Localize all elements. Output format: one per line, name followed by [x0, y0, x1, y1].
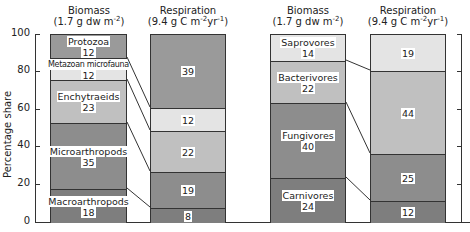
- y-tick-label-100: 100: [6, 27, 30, 38]
- segment-value: 12: [81, 70, 95, 81]
- segment-value: 23: [81, 102, 95, 113]
- segment-enchytraeids: Enchytraeids 23: [51, 80, 126, 123]
- y-axis-left: [35, 34, 36, 223]
- right-respiration-bar: 19 44 25 12: [370, 34, 446, 223]
- biomass-unit: (1.7 g dw m-2): [40, 16, 138, 27]
- segment-value: 24: [301, 201, 315, 212]
- biomass-title: Biomass: [260, 5, 356, 16]
- segment-value: 19: [181, 185, 195, 196]
- segment-protozoa: 39: [151, 35, 225, 108]
- segment-label: Saprovores: [280, 37, 335, 48]
- segment-value: 19: [401, 48, 415, 59]
- segment-value: 40: [301, 141, 315, 152]
- y-tick-label-0: 0: [6, 215, 30, 226]
- segment-value: 12: [181, 115, 195, 126]
- segment-value: 12: [401, 207, 415, 218]
- segment-value: 22: [181, 147, 195, 158]
- segment-value: 22: [301, 83, 315, 94]
- segment-microarthropods: 19: [151, 172, 225, 208]
- segment-label: Metazoan microfauna: [47, 59, 130, 70]
- segment-label: Fungivores: [281, 130, 335, 141]
- segment-enchytraeids: 22: [151, 131, 225, 172]
- y-tick: [35, 184, 40, 185]
- y-tick: [457, 109, 462, 110]
- right-biomass-header: Biomass (1.7 g dw m-2): [260, 5, 356, 27]
- y-tick: [35, 146, 40, 147]
- segment-label: Microarthropods: [49, 146, 128, 157]
- segment-fungivores: 25: [371, 154, 445, 201]
- y-tick-label-20: 20: [6, 177, 30, 188]
- y-tick-label-80: 80: [6, 64, 30, 75]
- segment-label: Macroarthropods: [47, 196, 130, 207]
- left-biomass-header: Biomass (1.7 g dw m-2): [40, 5, 138, 27]
- biomass-unit: (1.7 g dw m-2): [260, 16, 356, 27]
- segment-carnivores: Carnivores 24: [271, 178, 345, 223]
- left-respiration-header: Respiration (9.4 g C m-2yr-1): [138, 5, 238, 27]
- segment-fungivores: Fungivores 40: [271, 103, 345, 178]
- segment-value: 14: [301, 48, 315, 59]
- y-tick-label-40: 40: [6, 139, 30, 150]
- respiration-unit: (9.4 g C m-2yr-1): [138, 16, 238, 27]
- y-tick-label-60: 60: [6, 102, 30, 113]
- left-respiration-bar: 39 12 22 19 8: [150, 34, 226, 223]
- segment-label: Protozoa: [67, 36, 110, 47]
- biomass-title: Biomass: [40, 5, 138, 16]
- segment-value: 8: [184, 211, 192, 222]
- segment-microarthropods: Microarthropods 35: [51, 123, 126, 189]
- segment-label: Carnivores: [282, 190, 335, 201]
- segment-metazoan-microfauna: 12: [151, 108, 225, 131]
- y-tick: [35, 71, 40, 72]
- right-respiration-header: Respiration (9.4 g C m-2yr-1): [358, 5, 458, 27]
- left-biomass-bar: Protozoa 12 Metazoan microfauna 12 Enchy…: [50, 34, 127, 223]
- segment-label: Enchytraeids: [57, 91, 121, 102]
- segment-bacterivores: 44: [371, 71, 445, 154]
- segment-value: 12: [81, 47, 95, 58]
- segment-value: 18: [81, 207, 95, 218]
- segment-saprovores: Saprovores 14: [271, 35, 345, 61]
- y-tick: [457, 71, 462, 72]
- y-axis-right: [461, 34, 462, 223]
- segment-metazoan-microfauna: Metazoan microfauna 12: [51, 58, 126, 80]
- segment-protozoa: Protozoa 12: [51, 35, 126, 58]
- y-tick: [35, 109, 40, 110]
- y-tick: [35, 34, 40, 35]
- segment-macroarthropods: Macroarthropods 18: [51, 189, 126, 223]
- segment-value: 44: [401, 108, 415, 119]
- segment-value: 25: [401, 173, 415, 184]
- segment-saprovores: 19: [371, 35, 445, 71]
- y-tick: [457, 34, 462, 35]
- segment-bacterivores: Bacterivores 22: [271, 61, 345, 103]
- y-tick: [457, 184, 462, 185]
- segment-value: 35: [81, 157, 95, 168]
- respiration-unit: (9.4 g C m-2yr-1): [358, 16, 458, 27]
- segment-label: Bacterivores: [277, 72, 339, 83]
- right-biomass-bar: Saprovores 14 Bacterivores 22 Fungivores…: [270, 34, 346, 223]
- y-tick: [457, 146, 462, 147]
- segment-value: 39: [181, 66, 195, 77]
- segment-macroarthropods: 8: [151, 208, 225, 223]
- segment-carnivores: 12: [371, 201, 445, 223]
